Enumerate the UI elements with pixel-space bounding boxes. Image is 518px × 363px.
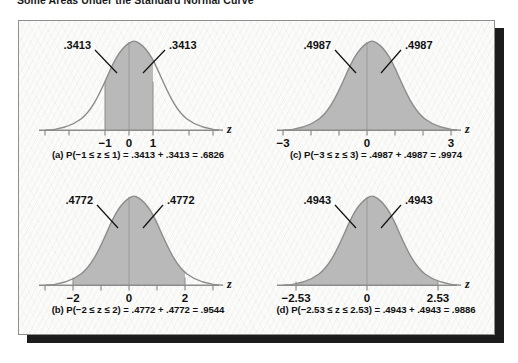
normal-curve-plot-c: −3 0 3 z .4987 .4987	[257, 23, 495, 151]
panel-d: −2.53 0 2.53 z .4943 .4943 (d) P(−2.53 ≤…	[257, 178, 495, 335]
panel-c: −3 0 3 z .4987 .4987 (c) P(−3 ≤ z ≤ 3) =…	[257, 23, 495, 180]
tick-label-d-1: 0	[364, 292, 370, 304]
tick-label-c-1: 0	[364, 137, 370, 149]
x-axis-ticks-c	[283, 130, 451, 135]
area-label-left-d: .4943	[303, 194, 331, 206]
tick-label-a-2: 1	[150, 137, 157, 149]
tick-label-d-2: 2.53	[427, 292, 449, 304]
panel-b: −2 0 2 z .4772 .4772 (b) P(−2 ≤ z ≤ 2) =…	[19, 178, 257, 335]
shaded-area-c	[283, 41, 461, 130]
x-axis-label-a: z	[226, 122, 232, 136]
tick-label-a-0: −1	[98, 137, 112, 149]
area-label-right-b: .4772	[167, 194, 195, 206]
x-axis-ticks-a	[45, 130, 213, 135]
panel-a: −1 0 1 z .3413 .3413 (a) P(−1 ≤ z ≤ 1) =…	[19, 23, 257, 180]
area-label-right-c: .4987	[405, 39, 433, 51]
tick-label-b-1: 0	[126, 292, 132, 304]
tick-label-d-0: −2.53	[281, 292, 310, 304]
x-axis-label-c: z	[464, 122, 470, 136]
shaded-area-a	[45, 41, 223, 130]
panel-caption-c: (c) P(−3 ≤ z ≤ 3) = .4987 + .4987 = .997…	[257, 149, 495, 160]
shaded-area-d	[283, 196, 461, 285]
panel-caption-b: (b) P(−2 ≤ z ≤ 2) = .4772 + .4772 = .954…	[19, 304, 257, 315]
tick-label-b-0: −2	[66, 292, 79, 304]
panel-caption-d: (d) P(−2.53 ≤ z ≤ 2.53) = .4943 + .4943 …	[257, 304, 495, 315]
normal-curve-plot-d: −2.53 0 2.53 z .4943 .4943	[257, 178, 495, 306]
normal-curve-plot-a: −1 0 1 z .3413 .3413	[19, 23, 257, 151]
tick-label-c-2: 3	[448, 137, 454, 149]
area-label-left-a: .3413	[63, 39, 91, 51]
tick-label-b-2: 2	[182, 292, 188, 304]
x-axis-ticks-b	[45, 285, 213, 290]
figure-title: Some Areas Under the Standard Normal Cur…	[17, 0, 254, 6]
x-axis-label-b: z	[226, 277, 232, 291]
panel-caption-a: (a) P(−1 ≤ z ≤ 1) = .3413 + .3413 = .682…	[19, 149, 257, 160]
x-axis-ticks-d	[296, 285, 438, 290]
area-label-left-b: .4772	[65, 194, 93, 206]
area-label-left-c: .4987	[303, 39, 331, 51]
area-label-right-a: .3413	[169, 39, 197, 51]
figure-frame: −1 0 1 z .3413 .3413 (a) P(−1 ≤ z ≤ 1) =…	[18, 20, 495, 335]
x-axis-label-d: z	[464, 277, 470, 291]
tick-label-c-0: −3	[276, 137, 289, 149]
shaded-area-b	[45, 196, 223, 285]
area-label-right-d: .4943	[405, 194, 433, 206]
normal-curve-plot-b: −2 0 2 z .4772 .4772	[19, 178, 257, 306]
tick-label-a-1: 0	[126, 137, 132, 149]
